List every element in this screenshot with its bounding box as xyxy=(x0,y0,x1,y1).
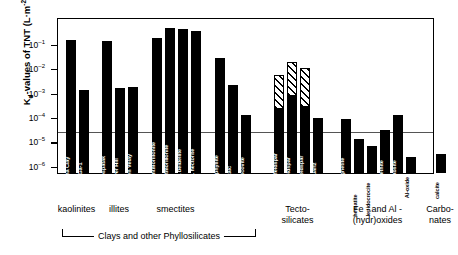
bar-hematite[interactable]: hematite xyxy=(354,139,364,173)
bar-calcite[interactable]: calcite xyxy=(436,154,446,173)
bar-label: muscovite xyxy=(240,158,246,185)
y-tick-label-1: 10–2 xyxy=(1,63,45,74)
bar-label: SHCa-1 hectorite xyxy=(190,149,196,192)
plot-area: China ClayKGa-1SarospatakSilver HillPuy … xyxy=(57,18,434,174)
bar-puy-en-velay[interactable]: Puy en Velay xyxy=(128,87,138,173)
bar-label: magnetite xyxy=(340,158,346,184)
bar-label: SAz-1 montmorillonite xyxy=(151,142,157,199)
bar-label: quartz xyxy=(312,163,318,179)
bar-label: KGa-1 xyxy=(78,163,84,179)
bar-range-hatch xyxy=(274,75,284,109)
bar-kga-1[interactable]: KGa-1 xyxy=(79,90,89,173)
y-tick-label-3: 10–4 xyxy=(1,112,45,123)
bar-label: pyrophyllite xyxy=(214,156,220,187)
bar-pyrophyllite[interactable]: pyrophyllite xyxy=(215,58,225,173)
bar-label: Al-oxide xyxy=(405,177,411,198)
bar-range-hatch xyxy=(300,68,310,107)
y-tick-label-0: 10–1 xyxy=(1,39,45,50)
bar-al-oxide[interactable]: Al-oxide xyxy=(406,157,416,173)
bar-sarospatak[interactable]: Sarospatak xyxy=(102,41,112,173)
bracket-label: Clays and other Phyllosilicates xyxy=(94,231,224,241)
bar-gibbsite[interactable]: gibbsite xyxy=(393,115,403,173)
bar-quartz[interactable]: quartz xyxy=(313,118,323,173)
bar-lepidocrocite[interactable]: lepidocrocite xyxy=(367,146,377,173)
group-caption-smectites: smectites xyxy=(116,204,236,215)
y-axis-title-sup: -2 xyxy=(20,0,27,6)
bar-goethite[interactable]: goethite xyxy=(380,130,390,173)
group-caption-carbonates: Carbo-nates xyxy=(380,204,458,226)
group-caption-line1: Carbo- xyxy=(380,204,458,215)
bar-label: Sarospatak xyxy=(101,156,107,185)
bar-china-clay[interactable]: China Clay xyxy=(66,40,76,173)
bar-label: calcite xyxy=(435,183,441,200)
bar-na-feldspar[interactable]: Na-feldspar xyxy=(300,68,310,173)
bar-label: Puy en Velay xyxy=(127,154,133,187)
bar-range-hatch xyxy=(287,62,297,96)
bar-magnetite[interactable]: magnetite xyxy=(341,119,351,173)
bar-talc[interactable]: talc xyxy=(228,85,238,173)
bar-label: C.B.montmorillonite xyxy=(164,145,170,197)
bar-saz-1-montmorillonite[interactable]: SAz-1 montmorillonite xyxy=(152,38,162,173)
bar-label: goethite xyxy=(379,161,385,182)
bar-label: Na-feldspar xyxy=(299,156,305,186)
bar-label: K/Na-feldspar xyxy=(273,153,279,188)
bar-label: China Clay xyxy=(65,157,71,185)
bar-k-feldspar[interactable]: K-feldspar xyxy=(287,62,297,173)
bar-label: SbCa-1 beidellite xyxy=(177,149,183,192)
bar-shca-1-hectorite[interactable]: SHCa-1 hectorite xyxy=(191,31,201,173)
y-tick-label-4: 10–5 xyxy=(1,136,45,147)
bar-label: gibbsite xyxy=(392,161,398,182)
group-caption-line2: nates xyxy=(380,215,458,226)
phyllosilicates-bracket: Clays and other Phyllosilicates xyxy=(62,229,256,237)
group-caption-line1: smectites xyxy=(116,204,236,215)
bar-silver-hill[interactable]: Silver Hill xyxy=(115,88,125,173)
bar-muscovite[interactable]: muscovite xyxy=(241,115,251,173)
y-axis-title-mid: -values of TNT (L·m xyxy=(21,6,32,95)
bar-label: K-feldspar xyxy=(286,158,292,185)
y-tick-label-5: 10–6 xyxy=(1,161,45,172)
bar-label: Silver Hill xyxy=(114,159,120,183)
bar-c-b-montmorillonite[interactable]: C.B.montmorillonite xyxy=(165,28,175,173)
y-tick-label-2: 10–3 xyxy=(1,88,45,99)
bar-k-na-feldspar[interactable]: K/Na-feldspar xyxy=(274,75,284,173)
bar-label: talc xyxy=(227,166,233,175)
bar-sbca-1-beidellite[interactable]: SbCa-1 beidellite xyxy=(178,29,188,173)
